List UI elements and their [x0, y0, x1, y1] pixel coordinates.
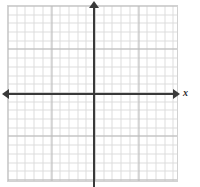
x-axis-left-arrowhead-icon	[2, 89, 9, 99]
y-axis-top-arrowhead-icon	[89, 1, 99, 8]
x-axis-line	[5, 93, 177, 95]
y-axis-line	[93, 3, 95, 187]
x-axis-right-arrowhead-icon	[173, 89, 180, 99]
coordinate-plane-figure: x	[0, 0, 200, 187]
x-axis-label: x	[183, 87, 188, 99]
